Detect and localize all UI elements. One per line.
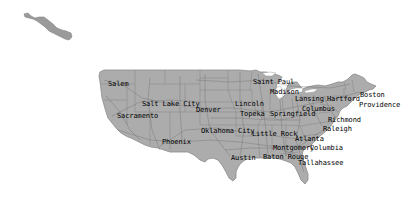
city-label-montgomery[interactable]: Montgomery	[273, 144, 314, 152]
city-label-oklahoma-city[interactable]: Oklahoma City	[201, 127, 255, 135]
city-label-sacramento[interactable]: Sacramento	[117, 112, 158, 120]
city-label-atlanta[interactable]: Atlanta	[295, 135, 324, 143]
city-label-salem[interactable]: Salem	[108, 80, 129, 88]
alaska-landmass	[24, 13, 72, 40]
city-label-lansing[interactable]: Lansing	[295, 95, 324, 103]
city-label-tallahassee[interactable]: Tallahassee	[298, 159, 343, 167]
city-label-boston[interactable]: Boston	[360, 91, 385, 99]
city-label-salt-lake-city[interactable]: Salt Lake City	[142, 100, 200, 108]
city-label-lincoln[interactable]: Lincoln	[235, 100, 264, 108]
city-label-phoenix[interactable]: Phoenix	[162, 138, 191, 146]
city-label-austin[interactable]: Austin	[231, 154, 256, 162]
city-label-denver[interactable]: Denver	[196, 106, 221, 114]
city-label-topeka[interactable]: Topeka	[240, 110, 265, 118]
city-label-providence[interactable]: Providence	[359, 101, 400, 109]
city-label-saint-paul[interactable]: Saint Paul	[253, 78, 294, 86]
city-label-raleigh[interactable]: Raleigh	[323, 125, 352, 133]
city-label-columbus[interactable]: Columbus	[302, 105, 335, 113]
city-label-hartford[interactable]: Hartford	[327, 95, 360, 103]
city-label-little-rock[interactable]: Little Rock	[252, 130, 297, 138]
city-label-richmond[interactable]: Richmond	[328, 116, 361, 124]
city-label-columbia[interactable]: Columbia	[310, 144, 343, 152]
